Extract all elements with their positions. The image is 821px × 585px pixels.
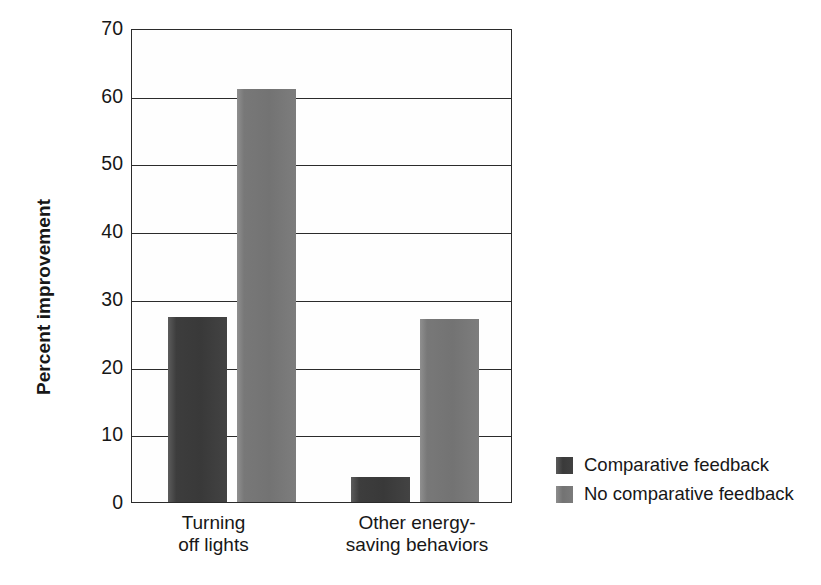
bar-no-comparative-other-behaviors <box>420 319 479 502</box>
y-tick-label: 20 <box>83 358 123 378</box>
gridline-50 <box>132 165 511 166</box>
y-axis-tick-labels: 70 60 50 40 30 20 10 0 <box>75 0 123 585</box>
x-axis-label-group-2: Other energy- saving behaviors <box>327 512 507 557</box>
legend-item-label: No comparative feedback <box>584 483 794 505</box>
y-tick-label: 60 <box>83 87 123 107</box>
x-axis-label-line: saving behaviors <box>327 534 507 556</box>
bar-comparative-other-behaviors <box>351 477 410 502</box>
chart-legend: Comparative feedback No comparative feed… <box>556 452 811 510</box>
legend-swatch-icon <box>556 486 573 503</box>
gridline-40 <box>132 233 511 234</box>
y-tick-label: 10 <box>83 425 123 445</box>
y-axis-title: Percent improvement <box>33 147 55 447</box>
gridline-30 <box>132 301 511 302</box>
legend-item-comparative-feedback: Comparative feedback <box>556 452 811 478</box>
legend-swatch-icon <box>556 457 573 474</box>
bar-no-comparative-turning-off-lights <box>237 89 296 502</box>
legend-item-label: Comparative feedback <box>584 454 769 476</box>
bar-chart-figure: Percent improvement 70 60 50 40 30 20 10… <box>0 0 821 585</box>
bar-comparative-turning-off-lights <box>168 317 227 502</box>
x-axis-label-line: off lights <box>146 534 281 556</box>
plot-area <box>131 29 512 503</box>
gridline-60 <box>132 98 511 99</box>
y-tick-label: 70 <box>83 19 123 39</box>
x-axis-label-group-1: Turning off lights <box>146 512 281 557</box>
x-axis-label-line: Other energy- <box>327 512 507 534</box>
legend-item-no-comparative-feedback: No comparative feedback <box>556 481 811 507</box>
y-tick-label: 0 <box>83 493 123 513</box>
y-tick-label: 30 <box>83 290 123 310</box>
y-tick-label: 40 <box>83 222 123 242</box>
y-tick-label: 50 <box>83 154 123 174</box>
x-axis-label-line: Turning <box>146 512 281 534</box>
